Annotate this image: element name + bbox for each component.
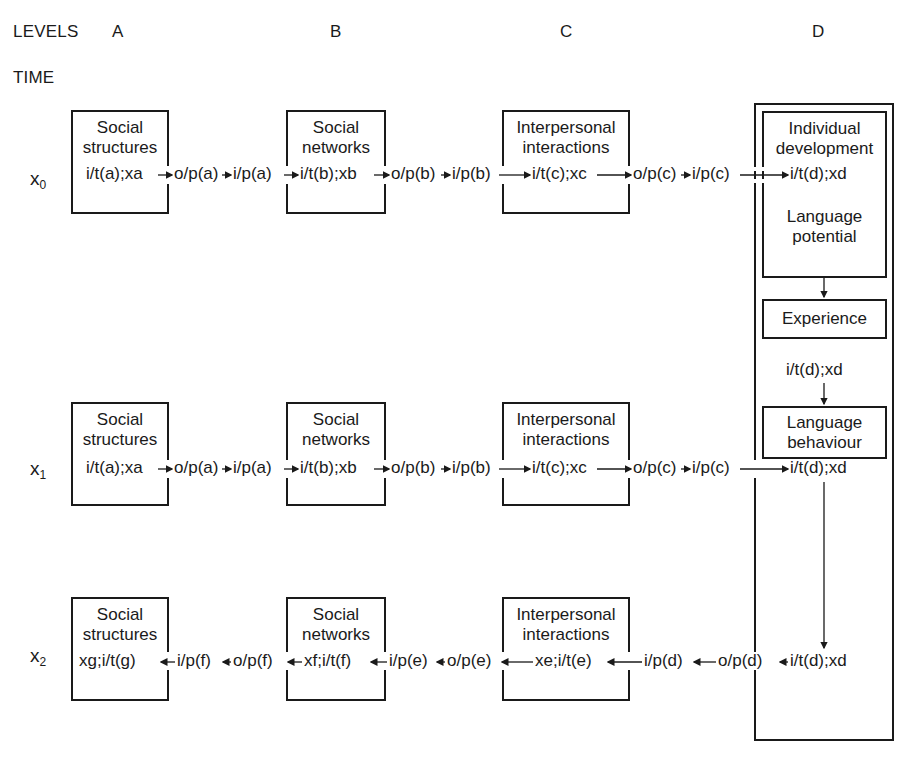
flow-arrows <box>0 0 919 760</box>
